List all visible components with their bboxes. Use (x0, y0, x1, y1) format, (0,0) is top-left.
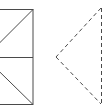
diagonal-bottom (0, 58, 33, 105)
dashed-triangle (56, 8, 102, 104)
dashed-edge-bottom (56, 57, 101, 104)
dashed-edge-top (56, 8, 101, 57)
geometry-diagram (0, 0, 110, 110)
diagonal-top (0, 10, 33, 58)
solid-folded-rectangle (0, 10, 33, 105)
